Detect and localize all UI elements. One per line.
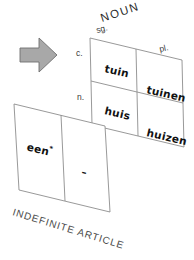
caption-indefinite-article: INDEFINITE ARTICLE — [11, 206, 125, 250]
right-arrow-icon — [20, 38, 57, 72]
column-header-plural: pl. — [158, 42, 169, 54]
grammar-diagram: tuin tuinen huis huizen NOUN sg. pl. c. … — [0, 0, 194, 260]
right-arrow-shape — [20, 38, 57, 72]
row-header-common: c. — [76, 48, 83, 58]
row-header-neuter: n. — [77, 92, 84, 102]
column-header-singular: sg. — [95, 22, 108, 34]
diagram-canvas: tuin tuinen huis huizen NOUN sg. pl. c. … — [0, 0, 194, 260]
page-title: NOUN — [99, 0, 141, 24]
